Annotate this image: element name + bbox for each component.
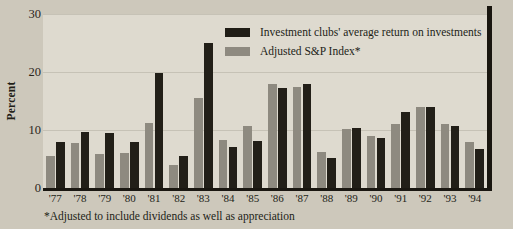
bar-sp-index [268, 84, 277, 188]
bar-sp-index [95, 154, 104, 188]
x-tick-label: '92 [413, 192, 438, 204]
x-tick-label: '81 [142, 192, 167, 204]
bar-sp-index [441, 124, 450, 188]
bar-sp-index [317, 152, 326, 188]
bar-investment-clubs [229, 147, 238, 188]
bar-sp-index [416, 107, 425, 188]
bar-investment-clubs [56, 142, 65, 188]
bar-sp-index [71, 143, 80, 188]
y-axis-label: Percent [5, 71, 17, 131]
x-tick-label: '84 [216, 192, 241, 204]
bar-investment-clubs [81, 132, 90, 188]
chart-screenshot: 0102030 Percent '77'78'79'80'81'82'83'84… [0, 0, 513, 229]
footnote: *Adjusted to include dividends as well a… [44, 210, 295, 222]
x-tick-label: '85 [240, 192, 265, 204]
x-tick-label: '91 [388, 192, 413, 204]
x-tick-label: '79 [92, 192, 117, 204]
bar-group [145, 14, 164, 188]
x-tick-label: '90 [364, 192, 389, 204]
bar-sp-index [169, 165, 178, 188]
legend: Investment clubs' average return on inve… [225, 26, 480, 64]
bar-group [46, 14, 65, 188]
x-tick-label: '87 [290, 192, 315, 204]
x-tick-label: '83 [191, 192, 216, 204]
x-axis-line [43, 188, 492, 191]
y-tick-label-0: 0 [5, 182, 41, 195]
legend-item-clubs: Investment clubs' average return on inve… [225, 26, 480, 38]
x-tick-label: '86 [265, 192, 290, 204]
bar-sp-index [293, 87, 302, 188]
legend-swatch-clubs [225, 28, 250, 37]
x-axis-ticks: '77'78'79'80'81'82'83'84'85'86'87'88'89'… [43, 192, 487, 208]
x-tick-label: '89 [339, 192, 364, 204]
x-tick-label: '88 [314, 192, 339, 204]
bar-sp-index [342, 129, 351, 188]
bar-investment-clubs [426, 107, 435, 188]
bar-investment-clubs [253, 141, 262, 188]
bar-sp-index [367, 136, 376, 188]
bar-group [95, 14, 114, 188]
bar-sp-index [145, 123, 154, 188]
legend-item-sp: Adjusted S&P Index* [225, 45, 480, 57]
x-tick-label: '80 [117, 192, 142, 204]
bar-investment-clubs [303, 84, 312, 188]
bar-group [120, 14, 139, 188]
bar-sp-index [465, 142, 474, 188]
bar-investment-clubs [204, 43, 213, 188]
bar-group [194, 14, 213, 188]
bar-investment-clubs [377, 138, 386, 188]
x-tick-label: '82 [166, 192, 191, 204]
bar-sp-index [243, 126, 252, 188]
bar-investment-clubs [475, 149, 484, 188]
x-tick-label: '94 [462, 192, 487, 204]
x-tick-label: '93 [438, 192, 463, 204]
bar-investment-clubs [130, 142, 139, 188]
bar-group [71, 14, 90, 188]
x-tick-label: '78 [68, 192, 93, 204]
bar-investment-clubs [155, 73, 164, 188]
bar-sp-index [219, 140, 228, 188]
bar-investment-clubs [352, 128, 361, 188]
legend-swatch-sp [225, 47, 250, 56]
legend-label-clubs: Investment clubs' average return on inve… [260, 26, 481, 38]
bar-investment-clubs [451, 126, 460, 188]
right-border-rule [487, 6, 492, 190]
legend-label-sp: Adjusted S&P Index* [260, 45, 361, 57]
bar-sp-index [391, 124, 400, 188]
bar-sp-index [120, 153, 129, 188]
bar-investment-clubs [401, 112, 410, 188]
bar-investment-clubs [105, 133, 114, 188]
bar-sp-index [194, 98, 203, 188]
bar-investment-clubs [327, 158, 336, 188]
bar-investment-clubs [179, 156, 188, 188]
bar-investment-clubs [278, 88, 287, 188]
bar-group [169, 14, 188, 188]
y-tick-label-30: 30 [5, 8, 41, 21]
x-tick-label: '77 [43, 192, 68, 204]
bar-sp-index [46, 156, 55, 188]
